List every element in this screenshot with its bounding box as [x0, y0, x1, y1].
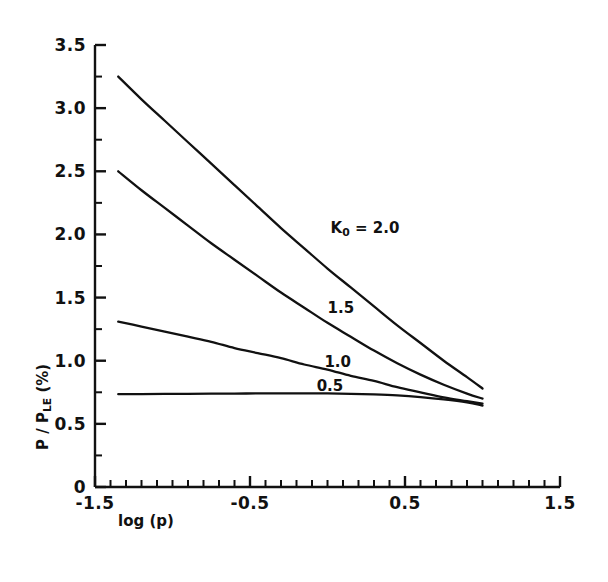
chart-figure: 00.51.01.52.02.53.03.5 -1.5-0.50.51.5 K0…: [0, 0, 608, 582]
curve-series-0: [118, 77, 482, 389]
x-axis-title: log (p): [118, 512, 174, 530]
x-ticks: [95, 476, 560, 487]
x-tick-label: 1.5: [530, 493, 590, 513]
curve-label-equals: =: [355, 219, 368, 237]
y-ticks: [95, 45, 106, 487]
y-axis-title-numerator: P: [34, 439, 52, 450]
y-tick-label: 2.0: [0, 224, 86, 244]
y-tick-label: 3.5: [0, 35, 86, 55]
axes-group: [95, 45, 560, 487]
x-tick-label: -1.5: [65, 493, 125, 513]
y-axis-title-unit: (%): [34, 364, 52, 393]
y-axis-title-denominator: P: [34, 412, 52, 423]
curve-series-3: [118, 393, 482, 405]
curve-label-3: 0.5: [317, 377, 344, 395]
curve-series-2: [118, 322, 482, 404]
curve-label-2: 1.0: [324, 353, 351, 371]
y-tick-label: 3.0: [0, 98, 86, 118]
curve-label-value: 2.0: [373, 219, 400, 237]
y-axis-title: P / PLE (%): [34, 364, 52, 450]
curve-label-prefix: K: [331, 219, 343, 237]
x-tick-label: 0.5: [375, 493, 435, 513]
y-axis-title-subscript: LE: [41, 398, 54, 412]
x-tick-label: -0.5: [220, 493, 280, 513]
y-tick-label: 1.5: [0, 288, 86, 308]
y-tick-label: 2.5: [0, 161, 86, 181]
curve-label-0: K0 = 2.0: [331, 219, 400, 237]
curve-label-subscript: 0: [342, 226, 350, 239]
data-curves: [118, 77, 482, 406]
curve-label-1: 1.5: [328, 299, 355, 317]
y-axis-title-separator: /: [34, 428, 52, 433]
